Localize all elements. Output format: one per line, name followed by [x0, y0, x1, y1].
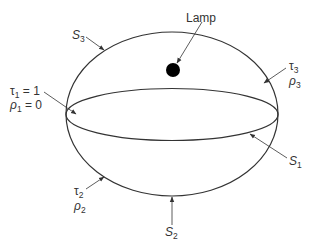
sphere-diagram: Lamp S3 τ1 = 1 ρ1 = 0 τ3 ρ3 S1 τ2 ρ2 S2	[0, 0, 316, 249]
s2-label: S2	[165, 225, 178, 241]
s1-label: S1	[289, 154, 302, 170]
s1-leader	[250, 134, 287, 158]
lamp-leader	[177, 22, 202, 63]
outer-sphere	[66, 32, 278, 196]
equator-ellipse	[66, 89, 278, 141]
tau1-leader	[44, 92, 76, 114]
lamp-label: Lamp	[186, 11, 216, 25]
s3-leader	[86, 37, 104, 50]
tau2-label: τ2	[74, 184, 84, 200]
lamp-dot	[166, 63, 180, 77]
rho2-label: ρ2	[73, 199, 86, 215]
tau3-leader	[264, 68, 286, 83]
tau3-label: τ3	[289, 59, 299, 75]
tau2-leader	[86, 177, 104, 189]
rho3-label: ρ3	[288, 74, 301, 90]
rho1-label: ρ1 = 0	[9, 98, 42, 114]
s3-label: S3	[72, 28, 85, 44]
